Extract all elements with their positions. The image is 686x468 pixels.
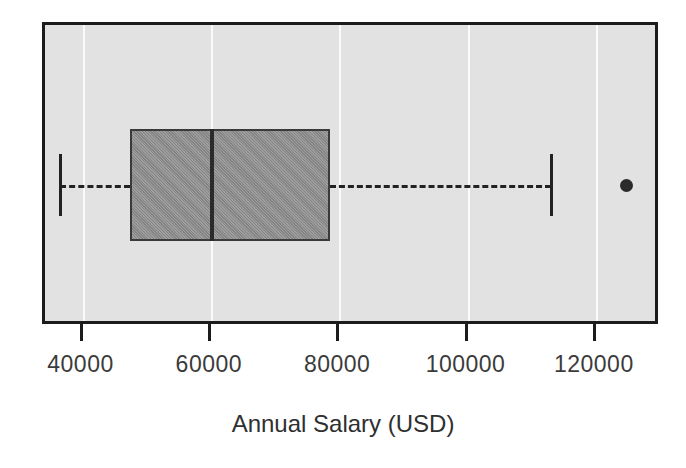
box-iqr — [130, 129, 330, 241]
x-tick-label: 40000 — [47, 351, 113, 378]
median-line — [210, 129, 214, 241]
x-tick-mark — [80, 324, 83, 341]
x-tick-label: 100000 — [426, 351, 506, 378]
x-tick-label: 60000 — [176, 351, 242, 378]
whisker-high-cap — [550, 154, 553, 216]
whisker-low-line — [60, 185, 129, 188]
plot-inner — [45, 25, 655, 321]
x-tick-mark — [208, 324, 211, 341]
box-plot-figure: Annual Salary (USD) 40000600008000010000… — [0, 0, 686, 468]
gridline — [596, 25, 598, 321]
x-tick-label: 80000 — [304, 351, 370, 378]
x-tick-mark — [593, 324, 596, 341]
gridline — [339, 25, 341, 321]
gridline — [468, 25, 470, 321]
outlier-point — [620, 179, 633, 192]
x-tick-mark — [465, 324, 468, 341]
x-tick-label: 120000 — [554, 351, 634, 378]
whisker-high-line — [330, 185, 551, 188]
x-axis-label: Annual Salary (USD) — [0, 410, 686, 438]
gridline — [83, 25, 85, 321]
x-tick-mark — [336, 324, 339, 341]
plot-area — [42, 22, 658, 324]
whisker-low-cap — [59, 154, 62, 216]
